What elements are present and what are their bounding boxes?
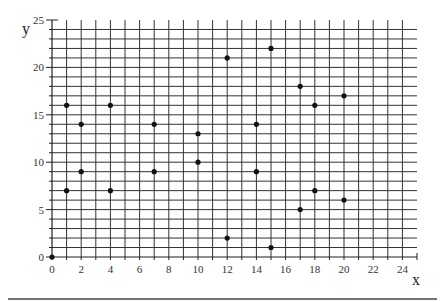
data-point bbox=[225, 235, 230, 240]
y-tick-label: 25 bbox=[33, 14, 45, 26]
data-point bbox=[312, 188, 317, 193]
x-tick-label: 20 bbox=[339, 263, 351, 275]
data-point bbox=[79, 169, 84, 174]
data-point bbox=[64, 188, 69, 193]
y-axis-label: y bbox=[22, 20, 30, 38]
axes bbox=[46, 20, 417, 260]
data-point bbox=[312, 103, 317, 108]
scatter-plot: 0246810121416182022240510152025 x y bbox=[0, 0, 443, 302]
grid-lines bbox=[52, 20, 417, 257]
x-tick-label: 8 bbox=[166, 263, 172, 275]
x-tick-label: 6 bbox=[137, 263, 143, 275]
y-tick-label: 15 bbox=[33, 109, 45, 121]
data-point bbox=[341, 93, 346, 98]
data-point bbox=[49, 254, 54, 259]
x-tick-label: 24 bbox=[397, 263, 409, 275]
data-point bbox=[152, 122, 157, 127]
data-point bbox=[298, 207, 303, 212]
x-tick-label: 12 bbox=[222, 263, 233, 275]
data-point bbox=[108, 103, 113, 108]
tick-labels: 0246810121416182022240510152025 bbox=[33, 14, 408, 275]
y-tick-label: 0 bbox=[39, 251, 45, 263]
x-tick-label: 2 bbox=[78, 263, 84, 275]
x-tick-label: 14 bbox=[251, 263, 263, 275]
data-point bbox=[64, 103, 69, 108]
x-tick-label: 4 bbox=[108, 263, 114, 275]
data-point bbox=[152, 169, 157, 174]
x-tick-label: 10 bbox=[193, 263, 205, 275]
data-point bbox=[254, 169, 259, 174]
data-point bbox=[195, 160, 200, 165]
data-point bbox=[268, 245, 273, 250]
data-point bbox=[79, 122, 84, 127]
data-point bbox=[298, 84, 303, 89]
data-point bbox=[108, 188, 113, 193]
data-point bbox=[254, 122, 259, 127]
data-point bbox=[341, 198, 346, 203]
x-tick-label: 18 bbox=[309, 263, 321, 275]
x-tick-label: 0 bbox=[49, 263, 55, 275]
y-tick-label: 20 bbox=[33, 61, 45, 73]
data-point bbox=[268, 46, 273, 51]
x-axis-label: x bbox=[412, 271, 420, 288]
y-tick-label: 5 bbox=[39, 204, 45, 216]
data-point bbox=[195, 131, 200, 136]
data-point bbox=[225, 55, 230, 60]
y-tick-label: 10 bbox=[33, 156, 45, 168]
x-tick-label: 16 bbox=[280, 263, 292, 275]
x-tick-label: 22 bbox=[368, 263, 379, 275]
